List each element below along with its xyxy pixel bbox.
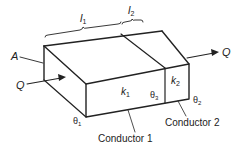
conductor1-leader xyxy=(128,110,135,132)
q-out-arrow-line xyxy=(187,53,214,58)
q-out-arrowhead xyxy=(211,49,219,56)
conductor-diagram: l1 l2 A Q Q k1 k2 θ1 θ2 θ3 Conductor 1 C… xyxy=(0,0,239,151)
box-left-top-diagonal xyxy=(44,46,86,84)
l2-label: l2 xyxy=(128,4,134,17)
conductor2-leader xyxy=(178,101,186,116)
conductor2-label: Conductor 2 xyxy=(165,117,220,128)
l1-label: l1 xyxy=(80,12,86,25)
area-leader xyxy=(20,57,43,63)
box-right-top-diagonal xyxy=(162,31,189,64)
q-out-label: Q xyxy=(222,46,231,58)
l2-brace xyxy=(122,19,143,24)
theta1-label: θ1 xyxy=(73,116,82,127)
q-in-label: Q xyxy=(16,79,25,91)
q-in-arrowhead xyxy=(58,74,66,81)
box-left-bottom-diagonal xyxy=(44,80,86,117)
conductor1-label: Conductor 1 xyxy=(98,133,153,144)
front-face xyxy=(86,64,189,117)
area-label: A xyxy=(10,50,18,62)
k1-label: k1 xyxy=(121,86,130,98)
theta2-label: θ2 xyxy=(193,95,202,106)
divider-top xyxy=(121,34,165,68)
k2-label: k2 xyxy=(171,75,180,87)
theta3-label: θ3 xyxy=(150,90,159,101)
